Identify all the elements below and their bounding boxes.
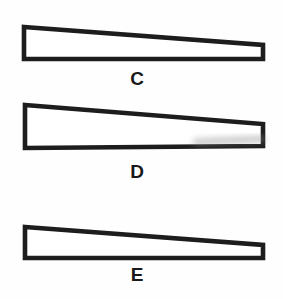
- shape-d-smudge-artifact: [196, 139, 262, 142]
- shape-d-label: D: [130, 161, 144, 182]
- shape-c-label: C: [130, 68, 144, 89]
- shape-e-label: E: [131, 264, 144, 285]
- wedge-shapes-diagram: C D E: [0, 0, 283, 299]
- figure-container: C D E: [0, 0, 283, 299]
